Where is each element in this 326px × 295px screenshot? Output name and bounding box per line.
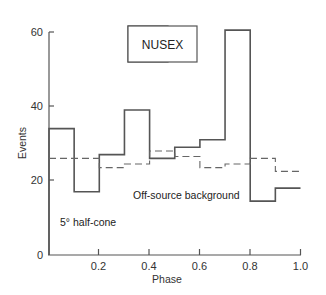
- chart-title: NUSEX: [142, 38, 183, 52]
- x-tick-1.0: 1.0: [293, 260, 308, 272]
- x-tick-0.4: 0.4: [141, 260, 156, 272]
- x-tick-0.6: 0.6: [192, 260, 207, 272]
- histogram-chart: 60 40 20 0 0.2 0.4 0.6 0.8 1.0 Phase Eve…: [0, 0, 326, 295]
- background-series: [49, 151, 301, 171]
- y-tick-60: 60: [31, 26, 43, 38]
- half-cone-label: 5° half-cone: [60, 216, 116, 228]
- y-tick-20: 20: [31, 174, 43, 186]
- background-label: Off-source background: [133, 189, 240, 201]
- y-tick-40: 40: [31, 100, 43, 112]
- x-axis-title: Phase: [152, 273, 182, 285]
- x-tick-0.2: 0.2: [91, 260, 106, 272]
- x-tick-0.8: 0.8: [242, 260, 257, 272]
- y-axis-title: Events: [16, 127, 28, 159]
- y-tick-0: 0: [37, 249, 43, 261]
